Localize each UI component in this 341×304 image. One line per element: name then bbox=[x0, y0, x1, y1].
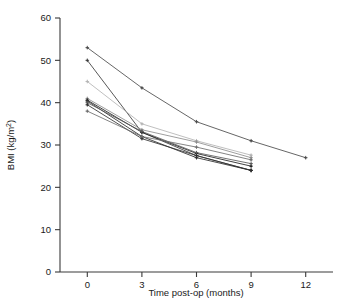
data-point-marker bbox=[249, 158, 253, 162]
x-tick-label: 0 bbox=[85, 279, 90, 290]
data-marker-layer bbox=[86, 46, 308, 172]
x-axis-title: Time post-op (months) bbox=[148, 287, 243, 298]
data-point-marker bbox=[304, 156, 308, 160]
x-tick-label: 9 bbox=[248, 279, 253, 290]
data-point-marker bbox=[86, 109, 90, 113]
data-point-marker bbox=[249, 169, 253, 173]
y-axis-tick-labels: 0102030405060 bbox=[40, 12, 51, 277]
x-tick-label: 3 bbox=[139, 279, 144, 290]
y-tick-label: 20 bbox=[40, 182, 51, 193]
data-point-marker bbox=[195, 145, 199, 149]
data-point-marker bbox=[249, 162, 253, 166]
bmi-spaghetti-plot: 0102030405060 036912 Time post-op (month… bbox=[0, 0, 341, 304]
chart-figure: 0102030405060 036912 Time post-op (month… bbox=[0, 0, 341, 304]
data-point-marker bbox=[249, 139, 253, 143]
series-line bbox=[87, 100, 251, 166]
y-tick-label: 60 bbox=[40, 12, 51, 23]
y-axis-ticks bbox=[55, 18, 60, 272]
axes-group bbox=[60, 18, 333, 272]
y-axis-title: BMI (kg/m2) bbox=[5, 120, 16, 170]
y-tick-label: 10 bbox=[40, 224, 51, 235]
x-tick-label: 12 bbox=[300, 279, 311, 290]
y-tick-label: 40 bbox=[40, 97, 51, 108]
y-tick-label: 50 bbox=[40, 55, 51, 66]
y-axis-title-group: BMI (kg/m2) bbox=[5, 120, 16, 170]
y-tick-label: 30 bbox=[40, 139, 51, 150]
y-tick-label: 0 bbox=[46, 266, 51, 277]
x-axis-ticks bbox=[87, 272, 305, 277]
